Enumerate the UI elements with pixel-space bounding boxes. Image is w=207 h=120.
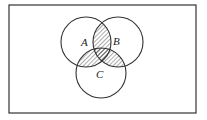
label-a: A bbox=[80, 36, 88, 48]
venn-diagram: A B C bbox=[0, 0, 207, 120]
label-c: C bbox=[96, 68, 104, 80]
label-b: B bbox=[113, 35, 120, 47]
